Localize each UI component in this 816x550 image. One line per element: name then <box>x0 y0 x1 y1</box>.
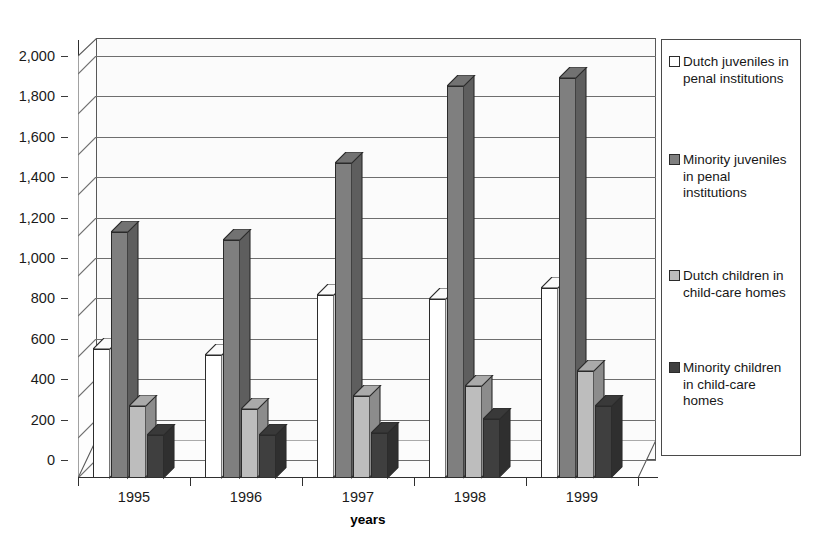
bar-top-face <box>353 385 383 398</box>
bar-front-face <box>429 299 446 478</box>
bar-1996-series-4 <box>259 435 276 478</box>
bar-1996-series-1 <box>205 355 222 478</box>
bar-front-face <box>129 406 146 478</box>
bar-front-face <box>577 371 594 478</box>
gridline-depth-connector <box>78 218 97 238</box>
y-axis-tick-mark <box>61 137 68 138</box>
x-axis-tick-mark <box>190 477 191 486</box>
bar-1999-series-3 <box>577 371 594 478</box>
gridline <box>96 56 656 57</box>
x-axis-tick-mark <box>302 477 303 486</box>
y-axis-tick-labels: 02004006008001,0001,2001,4001,6001,8002,… <box>0 0 68 550</box>
bar-1995-series-2 <box>111 232 128 478</box>
legend-label: Dutch children in child-care homes <box>683 268 795 301</box>
y-axis-tick-label: 1,800 <box>19 89 55 104</box>
chart-figure: 02004006008001,0001,2001,4001,6001,8002,… <box>0 0 816 550</box>
y-axis-tick-mark <box>61 298 68 299</box>
bar-1998-series-3 <box>465 386 482 478</box>
y-axis-tick-label: 200 <box>31 413 55 428</box>
y-axis-tick-label: 1,200 <box>19 211 55 226</box>
bar-top-face <box>335 152 365 165</box>
y-axis-tick-label: 400 <box>31 372 55 387</box>
y-axis-tick-mark <box>61 460 68 461</box>
gridline-depth-connector <box>78 298 97 318</box>
bar-1995-series-1 <box>93 349 110 478</box>
legend-entry[interactable]: Minority children in child-care homes <box>669 360 795 410</box>
legend-label: Minority children in child-care homes <box>683 360 795 410</box>
bar-top-face <box>577 360 607 373</box>
bar-1997-series-2 <box>335 163 352 478</box>
bar-1999-series-2 <box>559 78 576 478</box>
x-axis-line <box>78 477 658 478</box>
plot-area <box>78 38 656 478</box>
x-axis-tick-label: 1996 <box>190 489 302 505</box>
bar-front-face <box>93 349 110 478</box>
bar-front-face <box>205 355 222 478</box>
bar-front-face <box>465 386 482 478</box>
legend-swatch-icon <box>669 362 680 373</box>
bar-top-face <box>559 67 589 80</box>
gridline-depth-connector <box>78 177 97 197</box>
bar-front-face <box>241 409 258 478</box>
y-axis-tick-mark <box>61 339 68 340</box>
gridline-depth-connector <box>78 258 97 278</box>
bar-1996-series-3 <box>241 409 258 478</box>
legend-swatch-icon <box>669 154 680 165</box>
bar-1997-series-4 <box>371 433 388 478</box>
bar-top-face <box>595 395 625 408</box>
bar-front-face <box>541 288 558 478</box>
bar-top-face <box>129 395 159 408</box>
x-axis-title: years <box>78 512 658 527</box>
y-axis-tick-mark <box>61 379 68 380</box>
bar-1995-series-4 <box>147 435 164 478</box>
legend-label: Dutch juveniles in penal institutions <box>683 54 795 87</box>
y-axis-tick-label: 600 <box>31 332 55 347</box>
legend-label: Minority juveniles in penal institutions <box>683 152 795 202</box>
y-axis-tick-mark <box>61 177 68 178</box>
bar-top-face <box>241 398 271 411</box>
bars-layer <box>78 56 638 478</box>
bar-front-face <box>111 232 128 478</box>
bar-top-face <box>483 408 513 421</box>
bar-1997-series-3 <box>353 396 370 478</box>
chart-legend: Dutch juveniles in penal institutionsMin… <box>661 39 801 456</box>
bar-front-face <box>447 86 464 478</box>
bar-front-face <box>353 396 370 478</box>
bar-1998-series-2 <box>447 86 464 478</box>
bar-front-face <box>147 435 164 478</box>
y-axis-tick-label: 0 <box>47 453 55 468</box>
x-axis-tick-mark <box>414 477 415 486</box>
x-axis-tick-mark <box>78 477 79 486</box>
bar-1999-series-4 <box>595 406 612 478</box>
bar-front-face <box>371 433 388 478</box>
y-axis-tick-label: 2,000 <box>19 49 55 64</box>
bar-1995-series-3 <box>129 406 146 478</box>
x-axis-tick-label: 1997 <box>302 489 414 505</box>
x-axis-tick-mark <box>526 477 527 486</box>
y-axis-tick-label: 1,600 <box>19 130 55 145</box>
bar-front-face <box>223 240 240 478</box>
legend-swatch-icon <box>669 270 680 281</box>
bar-front-face <box>559 78 576 478</box>
x-axis-tick-label: 1998 <box>414 489 526 505</box>
bar-1999-series-1 <box>541 288 558 478</box>
gridline-depth-connector <box>78 137 97 157</box>
bar-top-face <box>259 424 289 437</box>
y-axis-tick-mark <box>61 56 68 57</box>
bar-top-face <box>447 75 477 88</box>
gridline-depth-connector <box>78 96 97 116</box>
x-axis-tick-label: 1999 <box>526 489 638 505</box>
x-axis-tick-label: 1995 <box>78 489 190 505</box>
y-axis-tick-mark <box>61 258 68 259</box>
y-axis-tick-label: 1,000 <box>19 251 55 266</box>
bar-1997-series-1 <box>317 295 334 478</box>
bar-1998-series-1 <box>429 299 446 478</box>
y-axis-tick-mark <box>61 96 68 97</box>
bar-top-face <box>111 221 141 234</box>
legend-entry[interactable]: Minority juveniles in penal institutions <box>669 152 795 202</box>
legend-entry[interactable]: Dutch children in child-care homes <box>669 268 795 301</box>
bar-front-face <box>595 406 612 478</box>
bar-front-face <box>317 295 334 478</box>
legend-entry[interactable]: Dutch juveniles in penal institutions <box>669 54 795 87</box>
legend-swatch-icon <box>669 56 680 67</box>
